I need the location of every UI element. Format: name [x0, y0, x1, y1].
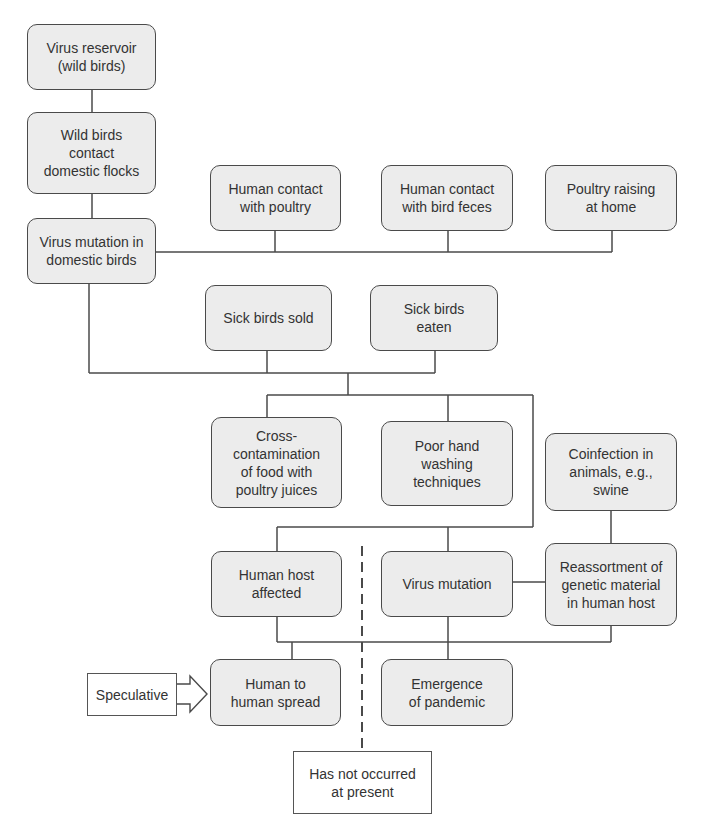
- node-human-contact-poultry: Human contact with poultry: [210, 165, 341, 231]
- node-poor-hand-washing: Poor hand washing techniques: [381, 421, 513, 506]
- annotation-has-not-occurred: Has not occurred at present: [293, 751, 432, 814]
- node-virus-reservoir: Virus reservoir (wild birds): [27, 24, 156, 90]
- node-coinfection: Coinfection in animals, e.g., swine: [545, 433, 677, 511]
- flow-diagram: Virus reservoir (wild birds) Wild birds …: [0, 0, 707, 832]
- node-virus-mutation-domestic: Virus mutation in domestic birds: [27, 218, 156, 284]
- arrow-right-icon: [176, 676, 207, 712]
- node-human-contact-feces: Human contact with bird feces: [381, 165, 513, 231]
- node-wild-birds-contact: Wild birds contact domestic flocks: [27, 112, 156, 194]
- node-human-host-affected: Human host affected: [211, 551, 342, 617]
- annotation-speculative: Speculative: [87, 673, 177, 716]
- node-poultry-raising-home: Poultry raising at home: [545, 165, 677, 231]
- node-human-to-human-spread: Human to human spread: [210, 659, 341, 726]
- node-cross-contamination: Cross- contamination of food with poultr…: [211, 417, 342, 508]
- node-virus-mutation: Virus mutation: [381, 551, 513, 617]
- node-reassortment: Reassortment of genetic material in huma…: [545, 543, 677, 626]
- node-sick-birds-eaten: Sick birds eaten: [370, 285, 498, 351]
- node-sick-birds-sold: Sick birds sold: [205, 285, 332, 351]
- node-emergence-pandemic: Emergence of pandemic: [381, 659, 513, 726]
